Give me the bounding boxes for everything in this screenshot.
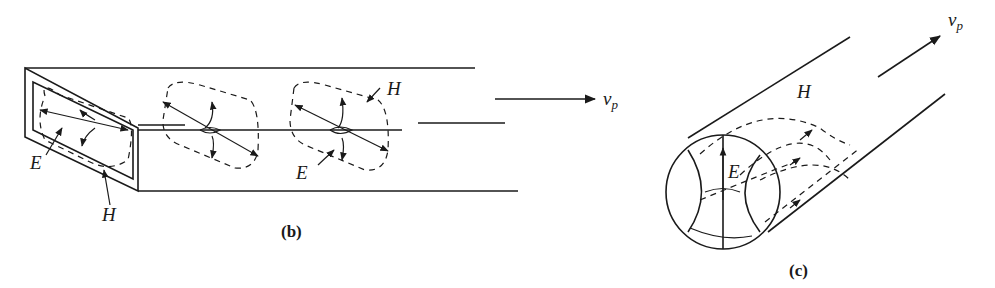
label-e-c: E [728,162,740,181]
vp-subscript: p [611,97,618,112]
caption-b: (b) [281,223,302,240]
caption-c: (c) [789,262,808,279]
label-h-mid: H [387,79,401,98]
waveguide-diagram [0,0,995,288]
circular-field-lines [700,118,860,222]
vp-subscript-c: p [956,18,963,33]
label-e-mid: E [296,163,308,182]
label-h-front: H [102,205,116,224]
label-e-front: E [30,153,42,172]
field-cell-2 [290,82,388,170]
rectangular-waveguide [25,68,518,191]
label-vp-c: vp [948,10,963,29]
circular-waveguide [666,37,945,249]
velocity-arrow-c [878,36,940,77]
label-h-c: H [797,82,811,101]
front-face-fields [40,88,132,205]
label-vp-b: vp [603,89,618,108]
